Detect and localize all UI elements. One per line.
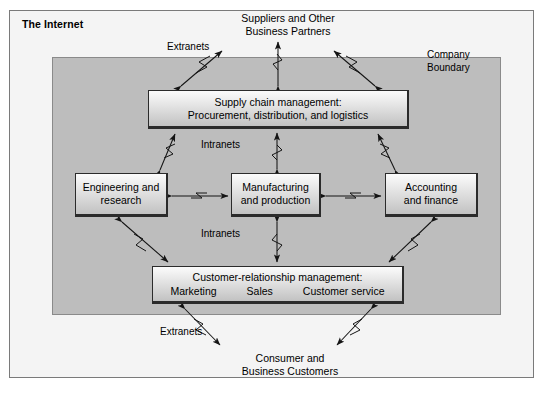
- box-supply-chain-line1: Supply chain management:: [214, 96, 341, 109]
- box-manufacturing-line2: and production: [241, 194, 310, 207]
- actor-consumers-line2: Business Customers: [215, 365, 365, 378]
- actor-consumers: Consumer and Business Customers: [215, 352, 365, 378]
- box-manufacturing-and-production: Manufacturing and production: [231, 173, 321, 217]
- internet-title: The Internet: [22, 18, 83, 30]
- box-engineering-line1: Engineering and: [83, 181, 159, 194]
- label-intranets-bottom: Intranets: [201, 228, 240, 241]
- label-extranets-top: Extranets: [167, 41, 209, 54]
- box-crm-functions: Marketing Sales Customer service: [153, 285, 402, 298]
- label-intranets-top: Intranets: [201, 139, 240, 152]
- box-supply-chain-line2: Procurement, distribution, and logistics: [188, 109, 368, 122]
- box-crm-marketing: Marketing: [170, 285, 216, 298]
- box-engineering-line2: research: [101, 194, 142, 207]
- box-engineering-and-research: Engineering and research: [75, 173, 168, 217]
- box-crm-customer-service: Customer service: [303, 285, 385, 298]
- box-crm-sales: Sales: [247, 285, 273, 298]
- actor-consumers-line1: Consumer and: [215, 352, 365, 365]
- company-boundary-label-line1: Company: [427, 49, 527, 62]
- box-accounting-line1: Accounting: [405, 181, 457, 194]
- box-accounting-and-finance: Accounting and finance: [385, 173, 478, 217]
- box-supply-chain-management: Supply chain management: Procurement, di…: [148, 90, 409, 129]
- company-boundary-label-line2: Boundary: [427, 62, 527, 75]
- diagram-canvas: The Internet Company Boundary: [0, 0, 546, 393]
- actor-suppliers-line2: Business Partners: [213, 25, 363, 38]
- box-accounting-line2: and finance: [404, 194, 458, 207]
- actor-suppliers: Suppliers and Other Business Partners: [213, 12, 363, 38]
- box-crm-line1: Customer-relationship management:: [193, 271, 363, 284]
- box-customer-relationship-management: Customer-relationship management: Market…: [152, 266, 404, 304]
- actor-suppliers-line1: Suppliers and Other: [213, 12, 363, 25]
- company-boundary-label: Company Boundary: [427, 49, 527, 74]
- label-extranets-bottom: Extranets: [160, 326, 202, 339]
- box-manufacturing-line1: Manufacturing: [242, 181, 309, 194]
